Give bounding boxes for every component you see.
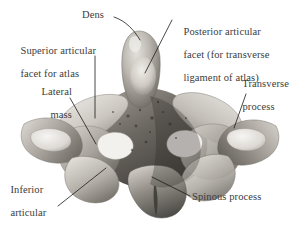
label-line: mass (51, 109, 72, 120)
label-spinous-process: Spinous process (192, 191, 292, 203)
label-line: process (242, 101, 274, 112)
label-line: articular (10, 207, 46, 218)
label-line: facet (for transverse (183, 49, 269, 60)
label-lateral-mass: Lateral mass (12, 74, 72, 120)
label-transverse-process: Transverse process (237, 66, 299, 112)
label-line: Transverse (242, 78, 289, 89)
label-line: Posterior articular (183, 26, 260, 37)
posterior-articular-facet (130, 57, 156, 95)
label-line: Lateral (42, 86, 72, 97)
label-line: Inferior (10, 184, 43, 195)
label-superior-articular-facet: Superior articular facet for atlas (15, 33, 125, 79)
label-dens: Dens (82, 9, 116, 21)
vertebral-foramen-left (97, 132, 133, 159)
label-inferior-articular-process: Inferior articular process (5, 172, 65, 228)
label-line: Superior articular (20, 45, 96, 56)
